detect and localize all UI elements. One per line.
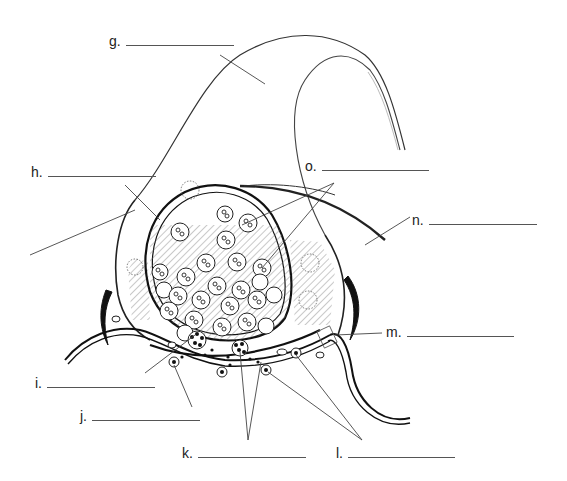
- label-k-blank[interactable]: [198, 456, 306, 458]
- label-i-blank[interactable]: [47, 386, 155, 388]
- label-h: h.: [31, 165, 156, 179]
- label-k-letter: k.: [182, 446, 193, 460]
- label-l: l.: [336, 446, 455, 460]
- label-j-blank[interactable]: [92, 419, 200, 421]
- label-h-letter: h.: [31, 165, 43, 179]
- label-n-blank[interactable]: [429, 223, 537, 225]
- label-l-blank[interactable]: [348, 456, 455, 458]
- label-o: o.: [305, 159, 429, 173]
- label-i-letter: i.: [35, 376, 42, 390]
- label-g: g.: [109, 34, 234, 48]
- vesicle-pocket: [127, 181, 319, 345]
- label-i: i.: [35, 376, 155, 390]
- label-o-letter: o.: [305, 159, 317, 173]
- label-m-blank[interactable]: [407, 335, 514, 337]
- label-m-letter: m.: [386, 325, 402, 339]
- label-g-blank[interactable]: [126, 44, 234, 46]
- label-n: n.: [412, 213, 537, 227]
- label-k: k.: [182, 446, 306, 460]
- label-g-letter: g.: [109, 34, 121, 48]
- label-j: j.: [80, 409, 200, 423]
- label-m: m.: [386, 325, 514, 339]
- label-j-letter: j.: [80, 409, 87, 423]
- label-l-letter: l.: [336, 446, 343, 460]
- label-h-blank[interactable]: [48, 175, 156, 177]
- label-n-letter: n.: [412, 213, 424, 227]
- label-o-blank[interactable]: [322, 169, 429, 171]
- axon: [135, 35, 405, 235]
